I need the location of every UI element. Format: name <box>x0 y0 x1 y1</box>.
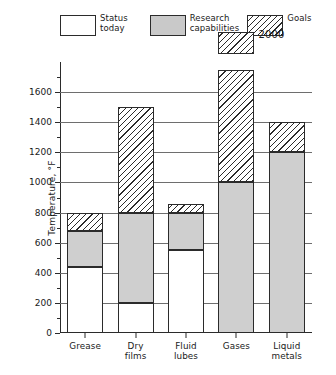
bar-slot: Liquid metals <box>262 62 312 333</box>
y-tick-label: 400 <box>35 268 52 278</box>
bar-segment-research <box>218 182 254 333</box>
chart-plot-area: Temperature, °F 020040060080010001200140… <box>60 62 312 333</box>
y-tick-label: 200 <box>35 298 52 308</box>
legend-label: Goals <box>287 14 311 24</box>
bar-slot: Dry films <box>110 62 160 333</box>
y-tick-label: 800 <box>35 208 52 218</box>
legend-label: Research capabilities <box>190 14 240 33</box>
x-axis-category-label: Liquid metals <box>272 341 302 361</box>
x-tick <box>185 333 186 338</box>
bar-segment-goals <box>118 107 154 212</box>
legend-swatch-gray <box>150 15 186 36</box>
y-tick-label: 0 <box>46 328 52 338</box>
x-axis-category-label: Dry films <box>125 341 147 361</box>
bar-segment-research <box>269 152 305 333</box>
legend-item-0: Status today <box>60 14 128 36</box>
x-axis-category-label: Grease <box>69 341 101 351</box>
bar[interactable] <box>168 62 204 333</box>
bar-segment-status <box>118 303 154 333</box>
bar-segment-research <box>168 213 204 251</box>
bar-segment-goals-detached <box>218 32 254 55</box>
bar-slot: Grease <box>60 62 110 333</box>
bar[interactable] <box>269 62 305 333</box>
y-tick-label: 1400 <box>29 117 52 127</box>
legend-swatch-white <box>60 15 96 36</box>
y-tick-label: 600 <box>35 238 52 248</box>
bar-slot: 2000Gases <box>211 62 261 333</box>
bar-slot: Fluid lubes <box>161 62 211 333</box>
bar-segment-goals <box>269 122 305 152</box>
y-tick-label: 1200 <box>29 147 52 157</box>
chart-legend: Status todayResearch capabilitiesGoals <box>60 14 330 48</box>
bar-segment-status <box>67 267 103 333</box>
bar-segment-research <box>118 213 154 303</box>
y-tick-label: 1600 <box>29 87 52 97</box>
bar[interactable]: 2000 <box>218 62 254 333</box>
y-axis-title: Temperature, °F <box>47 160 57 235</box>
bar[interactable] <box>67 62 103 333</box>
bar-segment-goals <box>67 213 103 231</box>
bar-segment-goals <box>168 204 204 213</box>
bar-annotation: 2000 <box>258 29 284 40</box>
y-tick-0 <box>55 333 60 334</box>
legend-label: Status today <box>100 14 128 33</box>
x-tick <box>85 333 86 338</box>
y-tick-label: 1000 <box>29 177 52 187</box>
bar-segment-research <box>67 231 103 267</box>
x-axis-category-label: Gases <box>223 341 250 351</box>
bar-segment-status <box>168 250 204 333</box>
x-axis-category-label: Fluid lubes <box>174 341 198 361</box>
x-tick <box>135 333 136 338</box>
bar[interactable] <box>118 62 154 333</box>
x-tick <box>286 333 287 338</box>
x-tick <box>236 333 237 338</box>
bar-segment-goals <box>218 70 254 183</box>
